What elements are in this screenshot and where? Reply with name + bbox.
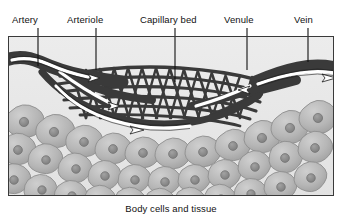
figure-caption: Body cells and tissue (0, 203, 342, 214)
figure-root: Artery Arteriole Capillary bed Venule Ve… (0, 0, 342, 221)
diagram-illustration (0, 0, 342, 221)
